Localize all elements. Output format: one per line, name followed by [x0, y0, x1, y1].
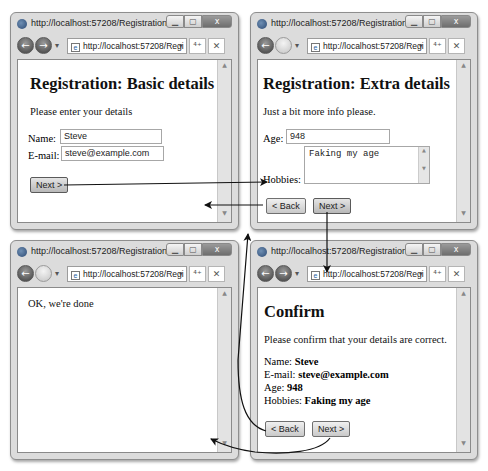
scroll-down-icon[interactable]: ▼ [218, 439, 231, 451]
page-icon: e [71, 43, 80, 52]
address-text: http://localhost:57208/Regi [323, 41, 424, 51]
hobbies-textarea[interactable]: Faking my age ▲▼ [304, 146, 430, 184]
stop-icon[interactable]: ✕ [208, 266, 225, 282]
browser-window-done: http://localhost:57208/Registration/C...… [10, 240, 239, 460]
next-button[interactable]: Next > [313, 198, 351, 214]
ie-favicon-icon [17, 19, 27, 29]
detail-label: Age: [264, 382, 284, 393]
refresh-icon[interactable]: ⁴⁺ [189, 38, 206, 54]
intro-text: Please enter your details [30, 106, 215, 117]
detail-value: Faking my age [305, 395, 371, 406]
detail-value: Steve [295, 356, 319, 367]
scroll-up-icon[interactable]: ▲ [457, 289, 470, 301]
forward-arrow-icon[interactable]: → [275, 265, 292, 282]
address-bar[interactable]: ehttp://localhost:57208/Regi ▾ [307, 266, 427, 282]
history-dropdown-icon[interactable]: ▾ [55, 269, 59, 278]
name-label: Name: [28, 133, 56, 144]
maximize-button[interactable]: ▢ [184, 15, 202, 28]
history-dropdown-icon[interactable]: ▾ [55, 41, 59, 50]
navigation-bar: ← → ▾ ehttp://localhost:57208/Regi ▾ ⁴⁺ … [255, 263, 473, 285]
close-window-button[interactable]: x [202, 243, 232, 256]
intro-text: Just a bit more info please. [263, 106, 454, 117]
maximize-button[interactable]: ▢ [423, 243, 441, 256]
back-button[interactable]: < Back [265, 421, 305, 437]
browser-window-basic-details: http://localhost:57208/Registration/B...… [10, 12, 239, 230]
stop-icon[interactable]: ✕ [448, 38, 465, 54]
back-arrow-icon[interactable]: ← [17, 265, 34, 282]
done-message: OK, we're done [28, 298, 215, 309]
textarea-scrollbar[interactable]: ▲▼ [418, 147, 429, 183]
address-bar[interactable]: ehttp://localhost:57208/Regi ▾ [67, 266, 187, 282]
scroll-down-icon[interactable]: ▼ [457, 209, 470, 221]
maximize-button[interactable]: ▢ [184, 243, 202, 256]
next-button[interactable]: Next > [312, 421, 350, 437]
scroll-up-icon[interactable]: ▲ [457, 61, 470, 73]
page-heading: Confirm [264, 302, 454, 322]
detail-value: steve@example.com [298, 369, 389, 380]
address-bar[interactable]: ehttp://localhost:57208/Regi ▾ [307, 38, 427, 54]
ie-favicon-icon [17, 247, 27, 257]
refresh-icon[interactable]: ⁴⁺ [189, 266, 206, 282]
back-arrow-icon[interactable]: ← [257, 37, 274, 54]
page-icon: e [71, 271, 80, 280]
detail-value: 948 [287, 382, 303, 393]
page-content: ▲ ▼ OK, we're done [17, 287, 232, 453]
back-arrow-icon[interactable]: ← [257, 265, 274, 282]
detail-label: Name: [264, 356, 292, 367]
close-window-button[interactable]: x [441, 243, 471, 256]
email-input[interactable]: steve@example.com [61, 146, 164, 161]
window-title: http://localhost:57208/Registration/C... [271, 246, 421, 256]
close-window-button[interactable]: x [202, 15, 232, 28]
scroll-up-icon[interactable]: ▲ [218, 289, 231, 301]
scroll-up-icon[interactable]: ▲ [218, 61, 231, 73]
address-text: http://localhost:57208/Regi [83, 41, 184, 51]
address-dropdown-icon[interactable]: ▾ [179, 267, 183, 281]
close-window-button[interactable]: x [441, 15, 471, 28]
hobbies-label: Hobbies: [263, 174, 301, 185]
navigation-bar: ← ▾ ehttp://localhost:57208/Regi ▾ ⁴⁺ ✕ [15, 263, 234, 285]
ie-favicon-icon [257, 19, 267, 29]
history-dropdown-icon[interactable]: ▾ [295, 41, 299, 50]
forward-arrow-icon [35, 265, 52, 282]
name-input[interactable]: Steve [60, 129, 162, 144]
minimize-button[interactable]: ▁ [405, 243, 423, 256]
age-input[interactable]: 948 [286, 129, 390, 144]
address-dropdown-icon[interactable]: ▾ [419, 267, 423, 281]
refresh-icon[interactable]: ⁴⁺ [429, 38, 446, 54]
stop-icon[interactable]: ✕ [208, 38, 225, 54]
stop-icon[interactable]: ✕ [448, 266, 465, 282]
maximize-button[interactable]: ▢ [423, 15, 441, 28]
minimize-button[interactable]: ▁ [166, 243, 184, 256]
page-heading: Registration: Extra details [263, 74, 454, 94]
email-label: E-mail: [28, 150, 60, 161]
page-icon: e [311, 43, 320, 52]
address-dropdown-icon[interactable]: ▾ [419, 39, 423, 53]
vertical-scrollbar[interactable]: ▲ ▼ [217, 60, 231, 222]
title-bar: http://localhost:57208/Registration/C...… [251, 241, 477, 263]
detail-row-hobbies: Hobbies: Faking my age [264, 395, 370, 406]
hobbies-text: Faking my age [309, 149, 379, 159]
minimize-button[interactable]: ▁ [405, 15, 423, 28]
address-text: http://localhost:57208/Regi [323, 269, 424, 279]
window-title: http://localhost:57208/Registration/C... [31, 246, 181, 256]
address-text: http://localhost:57208/Regi [83, 269, 184, 279]
history-dropdown-icon[interactable]: ▾ [295, 269, 299, 278]
address-bar[interactable]: ehttp://localhost:57208/Regi ▾ [67, 38, 187, 54]
vertical-scrollbar[interactable]: ▲ ▼ [456, 60, 470, 222]
scroll-down-icon[interactable]: ▼ [457, 439, 470, 451]
detail-label: Hobbies: [264, 395, 302, 406]
vertical-scrollbar[interactable]: ▲ ▼ [456, 288, 470, 452]
back-arrow-icon[interactable]: ← [17, 37, 34, 54]
page-content: ▲ ▼ Confirm Please confirm that your det… [257, 287, 471, 453]
page-content: ▲ ▼ Registration: Basic details Please e… [17, 59, 232, 223]
forward-arrow-icon[interactable]: → [35, 37, 52, 54]
page-content: ▲ ▼ Registration: Extra details Just a b… [257, 59, 471, 223]
detail-row-email: E-mail: steve@example.com [264, 369, 389, 380]
address-dropdown-icon[interactable]: ▾ [179, 39, 183, 53]
scroll-down-icon[interactable]: ▼ [218, 209, 231, 221]
minimize-button[interactable]: ▁ [166, 15, 184, 28]
refresh-icon[interactable]: ⁴⁺ [429, 266, 446, 282]
next-button[interactable]: Next > [30, 177, 68, 193]
vertical-scrollbar[interactable]: ▲ ▼ [217, 288, 231, 452]
back-button[interactable]: < Back [266, 198, 306, 214]
